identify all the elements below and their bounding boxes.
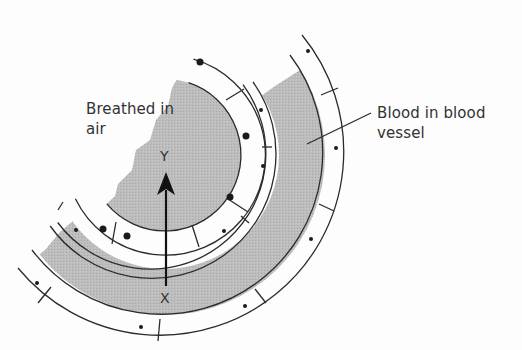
outer-divider — [319, 204, 334, 211]
diagram-canvas: Breathed in air Blood in blood vessel Y … — [0, 0, 522, 350]
outer-divider — [38, 287, 51, 303]
axis-label-y: Y — [160, 148, 169, 164]
alveolar-divider — [192, 225, 199, 247]
alveolar-divider — [228, 199, 248, 212]
blood-label-line-2: vessel — [377, 123, 486, 143]
outer-divider — [158, 319, 160, 341]
capillary-divider — [58, 202, 63, 210]
alveolus-diagram — [0, 0, 522, 350]
air-label-line-2: air — [86, 119, 174, 139]
air-label: Breathed in air — [86, 99, 174, 139]
air-label-line-1: Breathed in — [86, 99, 174, 119]
alveolar-divider — [226, 89, 244, 100]
outer-divider — [255, 289, 266, 303]
outer-divider — [321, 88, 338, 95]
axis-label-x: X — [160, 290, 170, 306]
blood-label: Blood in blood vessel — [377, 103, 486, 143]
blood-label-line-1: Blood in blood — [377, 103, 486, 123]
